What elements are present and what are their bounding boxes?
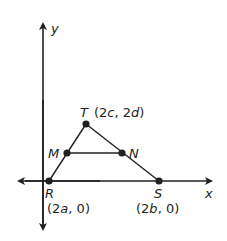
label-T: T bbox=[80, 105, 89, 120]
point-S bbox=[155, 177, 162, 184]
label-N: N bbox=[129, 146, 139, 161]
point-T bbox=[82, 120, 89, 127]
point-N bbox=[118, 149, 125, 156]
label-R: R bbox=[45, 186, 54, 201]
label-S: S bbox=[154, 186, 162, 201]
point-M bbox=[63, 149, 70, 156]
coord-R: (2a, 0) bbox=[47, 201, 90, 216]
coord-S: (2b, 0) bbox=[136, 201, 179, 216]
coordinate-diagram: y x T (2c, 2d) M N R (2a, 0) S (2b, 0) bbox=[0, 0, 227, 241]
y-axis-label: y bbox=[50, 21, 59, 36]
coord-T: (2c, 2d) bbox=[94, 105, 144, 120]
x-axis-label: x bbox=[204, 186, 213, 201]
point-R bbox=[45, 177, 52, 184]
label-M: M bbox=[48, 146, 59, 161]
